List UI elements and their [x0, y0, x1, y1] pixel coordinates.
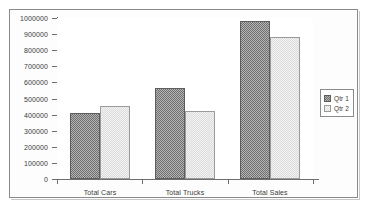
bar-total-sales-qtr-2[interactable] [270, 37, 300, 179]
category-axis-tick [57, 179, 58, 184]
value-axis-label: 1000000 [10, 15, 48, 22]
bar-total-cars-qtr-1[interactable] [70, 113, 100, 179]
category-axis-tick [142, 179, 143, 184]
value-axis-label: 0 [10, 176, 48, 183]
value-axis-label: 600000 [10, 79, 48, 86]
category-axis-tick [313, 179, 314, 184]
bar-group [70, 18, 130, 179]
category-axis-label: Total Cars [84, 189, 117, 196]
bar-group [155, 18, 215, 179]
legend-swatch-icon [324, 95, 331, 102]
value-axis-label: 400000 [10, 112, 48, 119]
value-axis-label: 100000 [10, 160, 48, 167]
bar-total-trucks-qtr-1[interactable] [155, 88, 185, 179]
chart-legend[interactable]: Qtr 1Qtr 2 [320, 89, 354, 117]
value-axis-label: 700000 [10, 63, 48, 70]
plot-area [57, 18, 313, 179]
category-axis-tick [228, 179, 229, 184]
category-axis-label: Total Sales [252, 189, 287, 196]
legend-item-qtr-1[interactable]: Qtr 1 [324, 93, 349, 103]
legend-item-qtr-2[interactable]: Qtr 2 [324, 103, 349, 113]
chart-frame[interactable]: 1000000900000800000700000600000500000400… [9, 9, 358, 198]
value-axis-label: 200000 [10, 144, 48, 151]
legend-swatch-icon [324, 105, 331, 112]
legend-label: Qtr 2 [334, 105, 349, 112]
value-axis-label: 500000 [10, 96, 48, 103]
legend-label: Qtr 1 [334, 95, 349, 102]
bar-total-cars-qtr-2[interactable] [100, 106, 130, 179]
bar-total-sales-qtr-1[interactable] [240, 21, 270, 179]
bar-group [240, 18, 300, 179]
bar-total-trucks-qtr-2[interactable] [185, 111, 215, 179]
value-axis-label: 800000 [10, 47, 48, 54]
category-axis-line [57, 179, 319, 180]
category-axis-label: Total Trucks [166, 189, 205, 196]
value-axis-label: 900000 [10, 31, 48, 38]
value-axis-label: 300000 [10, 128, 48, 135]
